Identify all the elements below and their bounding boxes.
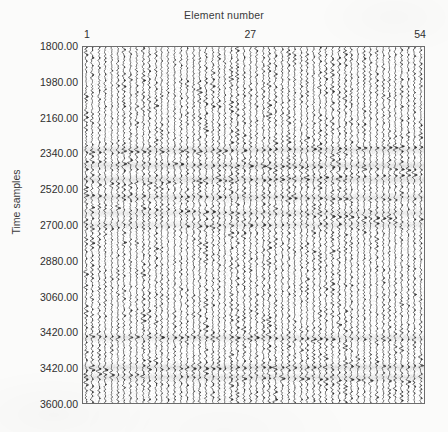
x-axis-tick-label: 54 [414, 28, 426, 40]
x-axis-tick-label: 27 [245, 28, 257, 40]
y-axis-tick-label: 2160.00 [4, 112, 78, 124]
y-axis-tick-label: 1800.00 [4, 40, 78, 52]
y-axis-tick-label: 2700.00 [4, 219, 78, 231]
y-axis-tick-label: 3060.00 [4, 291, 78, 303]
y-axis-tick-label: 2520.00 [4, 183, 78, 195]
y-axis-tick-label: 3420.00 [4, 362, 78, 374]
y-axis-tick-label: 3420.00 [4, 326, 78, 338]
y-axis-tick-labels: 1800.001980.002160.002340.002520.002700.… [0, 0, 78, 432]
figure-root: Element number Time samples 12754 1800.0… [0, 0, 448, 432]
y-axis-tick-label: 2340.00 [4, 147, 78, 159]
y-axis-tick-label: 2880.00 [4, 255, 78, 267]
plot-area [82, 46, 425, 404]
x-axis-tick-label: 1 [84, 28, 90, 40]
y-axis-tick-label: 3600.00 [4, 398, 78, 410]
wiggle-trace-plot [83, 47, 424, 403]
y-axis-tick-label: 1980.00 [4, 76, 78, 88]
